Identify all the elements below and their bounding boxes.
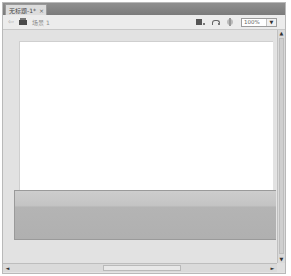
back-arrow-icon[interactable]: ⇦	[8, 19, 16, 25]
edit-symbols-icon[interactable]	[196, 18, 205, 26]
document-window: 无标题-1* × ⇦ 场景 1 100% ▼ ▲ ▼ ◄ ►	[2, 2, 286, 274]
pasteboard[interactable]	[3, 30, 276, 263]
zoom-center-icon[interactable]	[226, 18, 235, 26]
vertical-scrollbar[interactable]: ▲ ▼	[277, 30, 285, 263]
document-tab[interactable]: 无标题-1* ×	[5, 4, 47, 15]
gradient-rectangle-shape[interactable]	[14, 190, 276, 240]
scroll-down-icon[interactable]: ▼	[278, 256, 285, 263]
vertical-scroll-thumb[interactable]	[279, 38, 284, 254]
tab-bar: 无标题-1* ×	[3, 3, 285, 15]
scroll-left-icon[interactable]: ◄	[4, 264, 11, 272]
chevron-down-icon[interactable]: ▼	[266, 19, 276, 26]
scene-breadcrumb[interactable]: 场景 1	[32, 18, 50, 27]
horizontal-scroll-thumb[interactable]	[103, 265, 181, 271]
scene-icon	[19, 18, 27, 25]
document-tab-title: 无标题-1*	[9, 6, 36, 15]
zoom-level-select[interactable]: 100% ▼	[241, 18, 277, 27]
stage[interactable]	[19, 41, 273, 191]
horizontal-scrollbar[interactable]: ◄ ►	[3, 263, 277, 272]
zoom-level-value: 100%	[244, 19, 260, 25]
close-icon[interactable]: ×	[39, 7, 44, 14]
edit-scene-icon[interactable]	[211, 18, 220, 26]
scrollbar-corner	[277, 263, 285, 272]
scroll-right-icon[interactable]: ►	[269, 264, 276, 272]
toolbar-right-group: 100% ▼	[196, 17, 277, 27]
edit-bar: ⇦ 场景 1 100% ▼	[3, 15, 285, 30]
scroll-up-icon[interactable]: ▲	[278, 30, 285, 37]
